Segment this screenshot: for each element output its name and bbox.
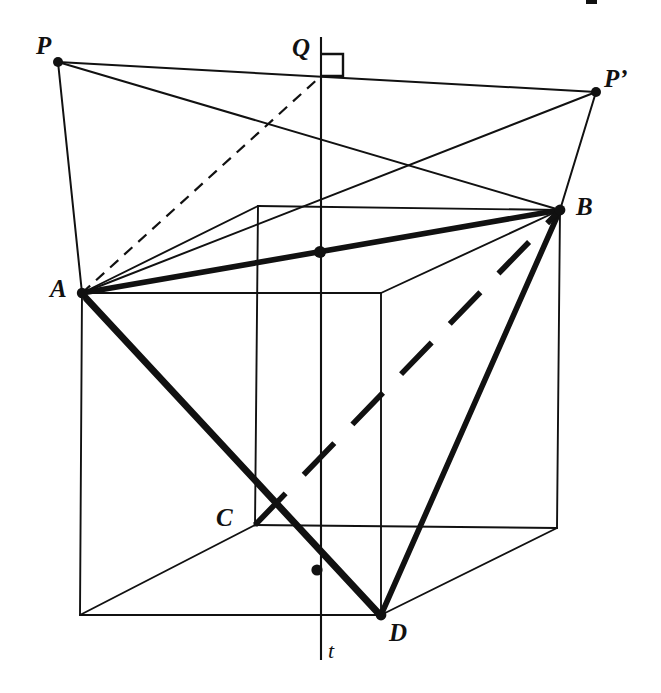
geometry-figure: P Q P’ A B C D t	[0, 0, 661, 693]
vertex-label-B: B	[576, 194, 593, 219]
right-angle-mark	[321, 54, 343, 76]
axis-label-t: t	[328, 640, 334, 662]
vertex-dot-D	[376, 610, 387, 621]
vertex-label-P-prime: P’	[604, 66, 628, 91]
midpoint-dot-AB	[314, 246, 326, 258]
segment-BD-thick	[381, 210, 560, 615]
segment-AC-thick	[86, 299, 381, 617]
vertex-label-A: A	[50, 276, 67, 301]
cube-edge-depth-bottom-left	[80, 525, 255, 615]
segment-PA	[58, 62, 82, 293]
vertex-dot-P-prime	[591, 87, 601, 97]
vertex-label-Q: Q	[292, 35, 310, 60]
tick-mark-at-C-group	[255, 508, 272, 525]
tick-mark-at-C	[255, 508, 272, 525]
cube-edge-back-right	[557, 210, 560, 528]
vertex-dot-A	[77, 288, 87, 298]
clipped-top-glyph-group	[586, 0, 597, 4]
vertex-label-C: C	[216, 505, 233, 530]
right-angle-mark-group	[321, 54, 343, 76]
cube-edge-front-left	[80, 293, 82, 615]
cube-edge-depth-bottom-right	[381, 528, 557, 615]
vertex-label-P: P	[36, 33, 51, 58]
segment-Pprime-A	[82, 92, 596, 293]
midpoint-dot-CD	[311, 564, 322, 575]
cube-edge-depth-top-right	[381, 210, 560, 293]
segment-P-Pprime	[58, 62, 596, 92]
clipped-top-glyph	[586, 0, 597, 4]
vertex-dot-P	[53, 57, 63, 67]
figure-canvas	[0, 0, 661, 693]
vertex-label-D: D	[389, 620, 407, 645]
vertex-dot-B	[555, 205, 566, 216]
